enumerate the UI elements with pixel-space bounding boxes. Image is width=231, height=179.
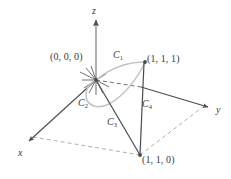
label-curve-c1-base: C bbox=[113, 49, 120, 60]
figure-drawing bbox=[0, 0, 231, 179]
label-curve-c2: C2 bbox=[78, 98, 88, 109]
label-origin-point: (0, 0, 0) bbox=[50, 52, 83, 62]
curve-c2 bbox=[86, 63, 145, 107]
label-curve-c2-subscript: 2 bbox=[85, 102, 88, 109]
x-axis bbox=[29, 80, 96, 141]
base-edge-front-right bbox=[140, 106, 204, 155]
figure-container: (0, 0, 0) (1, 1, 1) (1, 1, 0) z y x C1 C… bbox=[0, 0, 231, 179]
label-curve-c4-base: C bbox=[142, 98, 149, 109]
curve-c1 bbox=[96, 62, 145, 80]
label-curve-c1-subscript: 1 bbox=[120, 54, 123, 61]
label-curve-c2-base: C bbox=[78, 97, 85, 108]
label-base-corner-point: (1, 1, 0) bbox=[142, 155, 175, 165]
label-axis-z: z bbox=[92, 6, 96, 16]
label-curve-c3: C3 bbox=[107, 117, 117, 128]
label-axis-x: x bbox=[18, 148, 22, 158]
origin-ray-8 bbox=[86, 68, 96, 80]
label-curve-c3-subscript: 3 bbox=[114, 121, 117, 128]
label-top-corner-point: (1, 1, 1) bbox=[147, 54, 180, 64]
label-curve-c4-subscript: 4 bbox=[149, 103, 152, 110]
label-curve-c3-base: C bbox=[107, 116, 114, 127]
base-edge-front-left bbox=[33, 137, 140, 155]
origin-point-marker bbox=[94, 78, 98, 82]
curve-c3 bbox=[96, 80, 140, 155]
label-axis-y: y bbox=[216, 105, 220, 115]
x-axis-line bbox=[29, 80, 96, 141]
label-curve-c4: C4 bbox=[142, 99, 152, 110]
label-curve-c1: C1 bbox=[113, 50, 123, 61]
